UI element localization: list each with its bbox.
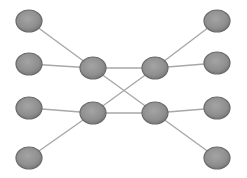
node-ir1 [142, 57, 168, 79]
node-circle [16, 147, 42, 169]
node-r2 [204, 52, 230, 74]
node-l1 [16, 10, 42, 32]
node-il1 [80, 57, 106, 79]
node-circle [80, 57, 106, 79]
node-circle [142, 57, 168, 79]
node-il2 [80, 102, 106, 124]
node-circle [16, 10, 42, 32]
node-circle [204, 10, 230, 32]
node-circle [16, 53, 42, 75]
node-circle [16, 97, 42, 119]
node-circle [204, 97, 230, 119]
network-diagram [0, 0, 247, 178]
node-circle [204, 52, 230, 74]
node-l2 [16, 53, 42, 75]
node-ir2 [142, 102, 168, 124]
node-r1 [204, 10, 230, 32]
node-r4 [204, 147, 230, 169]
node-circle [80, 102, 106, 124]
node-l4 [16, 147, 42, 169]
node-circle [204, 147, 230, 169]
node-circle [142, 102, 168, 124]
node-r3 [204, 97, 230, 119]
edge-layer [29, 21, 217, 158]
node-l3 [16, 97, 42, 119]
